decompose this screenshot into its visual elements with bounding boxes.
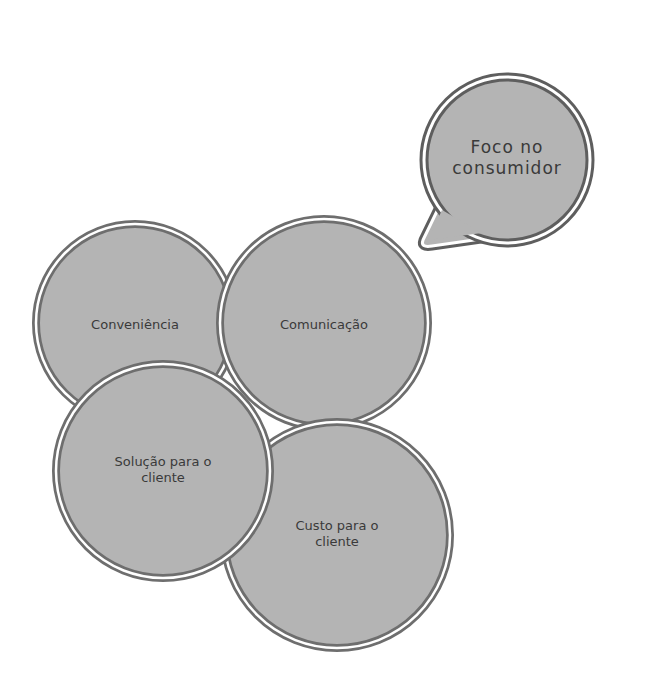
circle-label-customer-solution: Solução para o cliente — [103, 448, 223, 492]
circle-label-communication: Comunicação — [254, 310, 394, 340]
callout-label: Foco no consumidor — [447, 118, 567, 198]
circle-label-convenience: Conveniência — [75, 310, 195, 340]
circle-label-customer-cost: Custo para o cliente — [280, 512, 394, 556]
